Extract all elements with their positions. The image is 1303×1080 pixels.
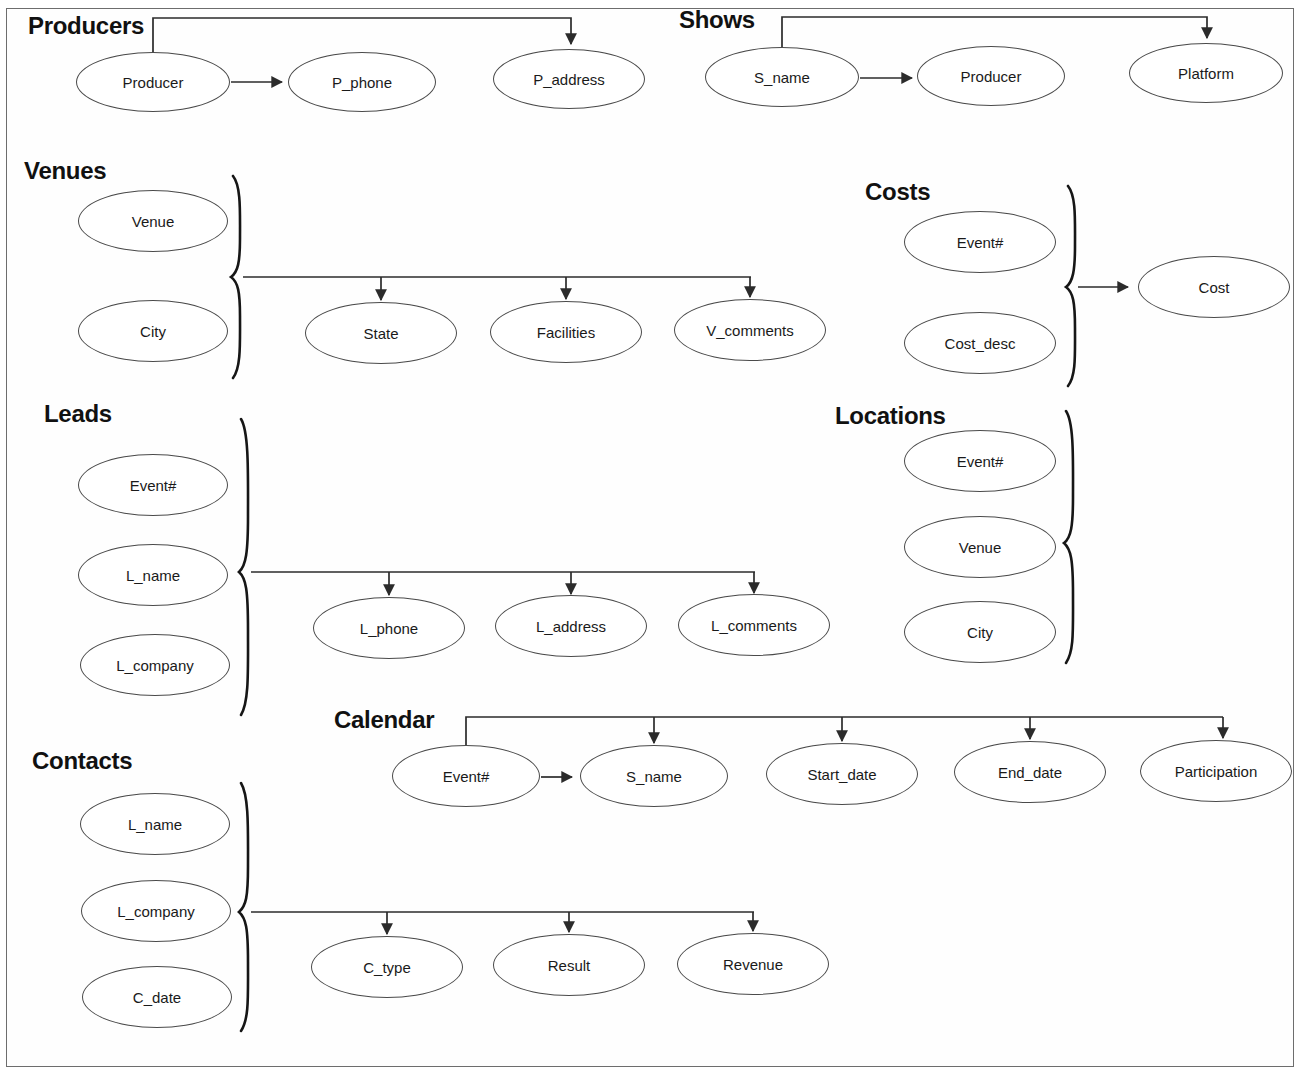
- attribute-label: Revenue: [723, 957, 783, 972]
- brace-venues: [231, 176, 240, 378]
- group-title-producers: Producers: [28, 12, 144, 40]
- attribute-node-locations-event[interactable]: Event#: [904, 430, 1056, 492]
- attribute-node-leads-l-phone[interactable]: L_phone: [313, 597, 465, 659]
- attribute-node-venues-facilities[interactable]: Facilities: [490, 301, 642, 363]
- attribute-label: State: [363, 326, 398, 341]
- edges-venues: [243, 277, 751, 300]
- group-title-shows: Shows: [679, 6, 755, 34]
- attribute-label: Producer: [123, 75, 184, 90]
- attribute-label: L_phone: [360, 621, 418, 636]
- group-title-calendar: Calendar: [334, 706, 434, 734]
- group-title-contacts: Contacts: [32, 747, 132, 775]
- attribute-label: S_name: [626, 769, 682, 784]
- attribute-node-contacts-c-type[interactable]: C_type: [311, 936, 463, 998]
- edge-s_name-to-platform: [782, 17, 1207, 47]
- attribute-label: P_phone: [332, 75, 392, 90]
- attribute-node-contacts-result[interactable]: Result: [493, 934, 645, 996]
- attribute-label: L_name: [126, 568, 180, 583]
- attribute-node-venues-state[interactable]: State: [305, 302, 457, 364]
- attribute-node-contacts-c-date[interactable]: C_date: [82, 966, 232, 1028]
- attribute-label: Venue: [132, 214, 175, 229]
- attribute-node-contacts-revenue[interactable]: Revenue: [677, 933, 829, 995]
- group-title-venues: Venues: [24, 157, 106, 185]
- attribute-node-leads-l-address[interactable]: L_address: [495, 595, 647, 657]
- attribute-node-costs-cost[interactable]: Cost: [1138, 256, 1290, 318]
- attribute-node-leads-event[interactable]: Event#: [78, 454, 228, 516]
- edge-producer-to-p_address: [153, 18, 571, 52]
- attribute-label: Event#: [957, 235, 1004, 250]
- attribute-label: P_address: [533, 72, 605, 87]
- edges-contacts: [251, 912, 754, 934]
- attribute-node-contacts-l-name[interactable]: L_name: [80, 793, 230, 855]
- attribute-node-shows-s-name[interactable]: S_name: [705, 47, 859, 107]
- attribute-label: End_date: [998, 765, 1062, 780]
- attribute-node-contacts-l-company[interactable]: L_company: [81, 880, 231, 942]
- attribute-node-producers-p-phone[interactable]: P_phone: [288, 52, 436, 112]
- brace-contacts: [239, 783, 248, 1031]
- attribute-node-locations-city[interactable]: City: [904, 601, 1056, 663]
- attribute-label: L_company: [117, 904, 195, 919]
- attribute-label: Event#: [957, 454, 1004, 469]
- attribute-node-leads-l-comments[interactable]: L_comments: [678, 594, 830, 656]
- attribute-label: Cost: [1199, 280, 1230, 295]
- attribute-node-calendar-start-date[interactable]: Start_date: [766, 743, 918, 805]
- attribute-label: L_address: [536, 619, 606, 634]
- attribute-label: L_company: [116, 658, 194, 673]
- attribute-node-calendar-s-name[interactable]: S_name: [580, 745, 728, 807]
- group-title-locations: Locations: [835, 402, 946, 430]
- brace-locations: [1064, 411, 1073, 663]
- attribute-node-locations-venue[interactable]: Venue: [904, 516, 1056, 578]
- attribute-node-leads-l-name[interactable]: L_name: [78, 544, 228, 606]
- attribute-label: City: [967, 625, 993, 640]
- group-title-costs: Costs: [865, 178, 930, 206]
- attribute-label: V_comments: [706, 323, 794, 338]
- brace-costs: [1066, 186, 1075, 386]
- attribute-node-producers-p-address[interactable]: P_address: [493, 49, 645, 109]
- attribute-node-shows-platform[interactable]: Platform: [1129, 43, 1283, 103]
- attribute-label: C_date: [133, 990, 181, 1005]
- attribute-label: Event#: [443, 769, 490, 784]
- attribute-label: Producer: [961, 69, 1022, 84]
- attribute-node-venues-city[interactable]: City: [78, 300, 228, 362]
- edges-leads: [251, 572, 755, 595]
- attribute-label: L_name: [128, 817, 182, 832]
- attribute-label: L_comments: [711, 618, 797, 633]
- attribute-node-venues-venue[interactable]: Venue: [78, 190, 228, 252]
- attribute-node-calendar-end-date[interactable]: End_date: [954, 741, 1106, 803]
- attribute-label: City: [140, 324, 166, 339]
- attribute-label: Event#: [130, 478, 177, 493]
- attribute-node-venues-v-comments[interactable]: V_comments: [674, 299, 826, 361]
- attribute-label: C_type: [363, 960, 411, 975]
- diagram-page: Producers Shows Venues Costs Leads Locat…: [0, 0, 1303, 1080]
- attribute-node-leads-l-company[interactable]: L_company: [80, 634, 230, 696]
- attribute-label: Facilities: [537, 325, 595, 340]
- attribute-label: Venue: [959, 540, 1002, 555]
- attribute-node-calendar-event[interactable]: Event#: [392, 745, 540, 807]
- attribute-node-costs-event[interactable]: Event#: [904, 211, 1056, 273]
- group-title-leads: Leads: [44, 400, 112, 428]
- attribute-node-shows-producer[interactable]: Producer: [917, 46, 1065, 106]
- attribute-node-costs-cost-desc[interactable]: Cost_desc: [904, 312, 1056, 374]
- brace-leads: [239, 419, 248, 715]
- attribute-node-producers-producer[interactable]: Producer: [76, 52, 230, 112]
- attribute-label: Result: [548, 958, 591, 973]
- edge-calendar-trunk: [466, 717, 1223, 745]
- attribute-label: Platform: [1178, 66, 1234, 81]
- attribute-label: Cost_desc: [945, 336, 1016, 351]
- attribute-node-calendar-participation[interactable]: Participation: [1140, 740, 1292, 802]
- attribute-label: Participation: [1175, 764, 1258, 779]
- attribute-label: Start_date: [807, 767, 876, 782]
- attribute-label: S_name: [754, 70, 810, 85]
